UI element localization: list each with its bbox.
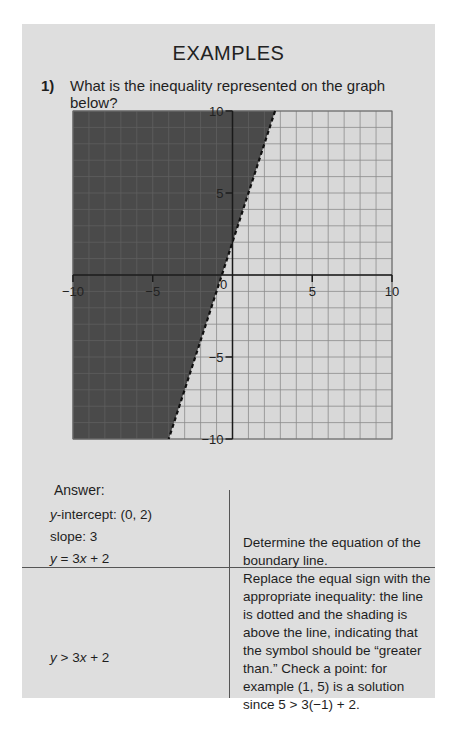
- step-1-work: y-intercept: (0, 2) slope: 3 y = 3x + 2: [50, 506, 152, 572]
- slope-text: slope: 3: [50, 528, 152, 546]
- examples-panel: EXAMPLES 1) What is the inequality repre…: [22, 24, 435, 698]
- answer-label: Answer:: [54, 482, 105, 498]
- x-tick-label: 10: [385, 284, 399, 299]
- question-number: 1): [41, 77, 54, 94]
- step-2-explanation: Replace the equal sign with the appropri…: [243, 570, 435, 714]
- table-column-divider: [229, 490, 230, 698]
- x-tick-label: −5: [145, 284, 160, 299]
- section-title: EXAMPLES: [22, 42, 435, 65]
- y-tick-label: −10: [201, 432, 223, 447]
- y-tick-label: −5: [209, 350, 224, 365]
- step-2-inequality: y > 3x + 2: [50, 649, 109, 667]
- step-1-explanation: Determine the equation of the boundary l…: [243, 534, 433, 570]
- y-tick-label: 10: [209, 104, 223, 119]
- inequality-graph: −10−55100105−5−10: [52, 104, 412, 476]
- x-tick-label: 5: [309, 284, 316, 299]
- origin-label: 0: [220, 277, 227, 292]
- equation-text: y = 3x + 2: [50, 550, 152, 568]
- x-tick-label: −10: [62, 284, 84, 299]
- y-tick-label: 5: [216, 186, 223, 201]
- y-intercept-text: y-intercept: (0, 2): [50, 506, 152, 524]
